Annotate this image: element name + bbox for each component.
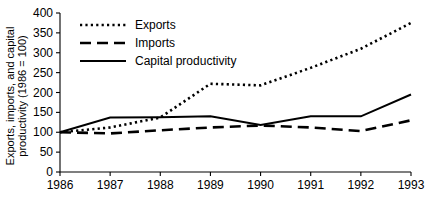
y-tick-label: 50 <box>40 145 54 159</box>
y-tick-label: 400 <box>33 6 53 20</box>
y-tick-label: 200 <box>33 86 53 100</box>
y-tick-label: 150 <box>33 105 53 119</box>
y-tick-label: 100 <box>33 125 53 139</box>
chart-figure: Exports, imports, and capital productivi… <box>0 0 440 200</box>
x-tick-label: 1989 <box>197 178 224 192</box>
x-tick-label: 1993 <box>398 178 425 192</box>
legend-label: Imports <box>135 36 175 50</box>
x-tick-label: 1991 <box>297 178 324 192</box>
y-tick-label: 250 <box>33 66 53 80</box>
x-tick-label: 1987 <box>97 178 124 192</box>
x-tick-label: 1990 <box>247 178 274 192</box>
x-tick-label: 1992 <box>348 178 375 192</box>
y-tick-label: 300 <box>33 46 53 60</box>
legend-label: Capital productivity <box>135 54 236 68</box>
axis-frame <box>60 13 411 172</box>
y-tick-label: 0 <box>46 165 53 179</box>
legend-label: Exports <box>135 18 176 32</box>
line-chart: Exports, imports, and capital productivi… <box>0 0 440 200</box>
y-axis-title-line1: Exports, imports, and capital <box>4 27 16 166</box>
x-tick-label: 1986 <box>47 178 74 192</box>
x-axis-ticks: 19861987198819891990199119921993 <box>47 172 425 192</box>
data-series-group <box>60 23 411 134</box>
y-axis-title: Exports, imports, and capital productivi… <box>4 27 28 166</box>
series-line-imports <box>60 120 411 133</box>
y-axis-ticks: 050100150200250300350400 <box>33 6 60 179</box>
y-tick-label: 350 <box>33 26 53 40</box>
chart-legend: ExportsImportsCapital productivity <box>80 18 236 68</box>
y-axis-title-line2: productivity (1986 = 100) <box>16 35 28 156</box>
x-tick-label: 1988 <box>147 178 174 192</box>
